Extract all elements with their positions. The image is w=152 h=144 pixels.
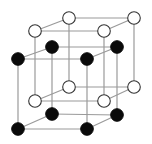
white-atom-icon: [128, 81, 141, 94]
black-atom-icon: [81, 53, 94, 66]
white-atom-icon: [98, 25, 111, 38]
black-atom-icon: [81, 123, 94, 136]
white-atom-icon: [98, 95, 111, 108]
white-atom-icon: [29, 25, 42, 38]
black-atom-icon: [12, 53, 25, 66]
black-atom-icon: [111, 109, 124, 122]
white-atom-icon: [29, 95, 42, 108]
black-atom-icon: [12, 123, 25, 136]
black-sublattice-edge: [52, 114, 117, 115]
white-atom-icon: [63, 81, 76, 94]
black-atom-icon: [111, 41, 124, 54]
white-atom-icon: [128, 12, 141, 25]
black-atom-icon: [46, 41, 59, 54]
crystal-lattice-diagram: [0, 0, 152, 144]
white-atom-icon: [63, 12, 76, 25]
black-atom-icon: [46, 108, 59, 121]
lattice-atoms: [12, 12, 141, 136]
